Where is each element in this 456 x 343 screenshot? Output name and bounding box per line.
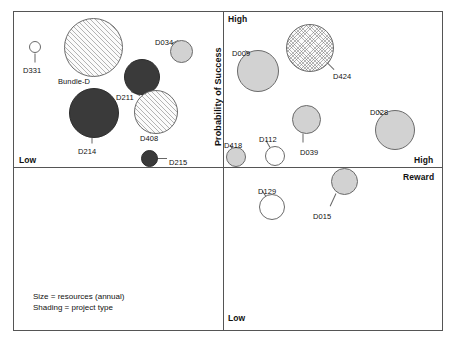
- bubble-label-d331: D331: [23, 66, 41, 75]
- bubble-label-d129: D129: [258, 187, 276, 196]
- bubble-d215[interactable]: [141, 150, 158, 167]
- bubble-bundle-d[interactable]: [64, 18, 123, 77]
- bubble-label-d424: D424: [333, 72, 351, 81]
- bubble-label-d418: D418: [224, 141, 242, 150]
- bubble-d424[interactable]: [286, 24, 334, 72]
- leader-line: [330, 193, 337, 206]
- bubble-d112[interactable]: [265, 146, 285, 166]
- bubble-d015[interactable]: [331, 168, 358, 195]
- bubble-label-bundle-d: Bundle-D: [58, 77, 90, 86]
- leader-line: [303, 134, 304, 143]
- bubble-label-d034: D034: [155, 38, 173, 47]
- bubble-label-d211: D211: [116, 93, 134, 102]
- bubble-d214[interactable]: [69, 88, 119, 138]
- bubble-d408[interactable]: [134, 90, 178, 134]
- bubble-label-d039: D039: [300, 148, 318, 157]
- bubble-d129[interactable]: [259, 194, 285, 220]
- leader-line: [35, 54, 36, 63]
- plot-layer: D331Bundle-DD034D211D214D408D215D009D424…: [0, 0, 456, 343]
- bubble-label-d408: D408: [140, 134, 158, 143]
- bubble-label-d028: D028: [370, 108, 388, 117]
- bubble-label-d112: D112: [259, 135, 277, 144]
- bubble-label-d214: D214: [78, 147, 96, 156]
- bubble-d039[interactable]: [292, 105, 321, 134]
- leader-line: [157, 158, 167, 159]
- bubble-label-d015: D015: [313, 212, 331, 221]
- bubble-label-d009: D009: [232, 49, 250, 58]
- bubble-label-d215: D215: [169, 158, 187, 167]
- bubble-d331[interactable]: [29, 41, 41, 53]
- bubble-d418[interactable]: [226, 147, 246, 167]
- leader-line: [92, 138, 93, 144]
- bubble-matrix-chart: Probability of Success High Low Low High…: [0, 0, 456, 343]
